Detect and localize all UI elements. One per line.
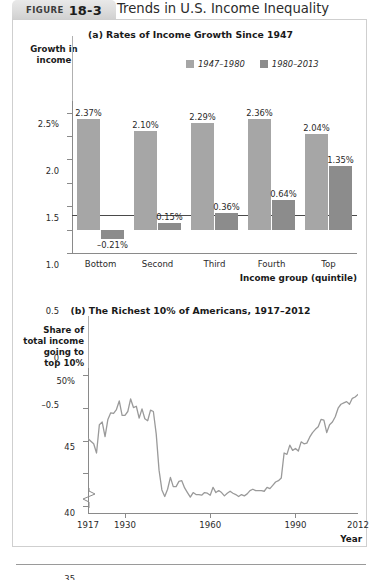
panel-a-y-tick: 1.0 [67,183,72,184]
bar-value-label: 2.04% [303,123,330,133]
bar-value-label: –0.21% [97,240,128,250]
panel-a-y-tick: 2.5% [67,113,72,114]
legend-swatch-1980-2013 [260,60,268,68]
bar-bottom-1980-2013 [101,230,124,240]
legend-label-1980-2013: 1980–2013 [272,59,319,69]
panel-a-y-tick: 1.5 [67,159,72,160]
panel-a-x-tick-label-third: Third [204,259,226,269]
figure-number-tab: FIGURE 18-3 [12,0,116,20]
panel-b-x-tick-label-1990: 1990 [285,520,307,530]
panel-b-y-axis-label-line-2: total income [6,336,84,347]
panel-a-x-tick-label-top: Top [321,259,336,269]
legend-swatch-1947-1980 [186,60,194,68]
panel-b-x-axis-title: Year [340,534,362,544]
bottom-divider [16,564,366,565]
panel-a-y-tick: 0.5 [67,206,72,207]
legend-item-1980-2013: 1980–2013 [260,59,319,69]
panel-a-plot-area: 2.5%2.01.51.00.50–0.5 2.37%–0.21%2.10%0.… [72,101,357,253]
bar-third-1980-2013 [215,213,238,230]
bar-value-label: 2.37% [75,108,102,118]
panel-a-x-axis-title: Income group (quintile) [240,273,357,283]
figure-number: 18-3 [69,3,102,18]
panel-a-y-axis-label-line-2: income [26,55,82,66]
panel-a-x-tick-label-second: Second [142,259,174,269]
panel-a-y-tick-label: –0.5 [41,400,59,410]
panel-b-y-tick-label: 40 [64,508,75,518]
bar-top-1947-1980 [305,134,328,229]
panel-a-x-tick-label-bottom: Bottom [85,259,117,269]
panel-b-y-axis-label-line-1: Share of [6,325,84,336]
bar-value-label: 2.10% [132,120,159,130]
panel-a-legend: 1947–1980 1980–2013 [186,59,319,69]
panel-b-y-tick-label: 50% [56,376,75,386]
panel-b-x-tick-label-1960: 1960 [199,520,221,530]
panel-a-x-axis [72,253,357,254]
panel-b-line-series [88,368,358,513]
panel-a-y-tick: 0 [67,230,72,231]
bar-value-label: 0.36% [213,202,240,212]
income-share-line [88,394,358,497]
bar-fourth-1947-1980 [248,119,271,229]
figure-title: Trends in U.S. Income Inequality [117,1,329,16]
panel-b-y-axis-label: Share of total income going to top 10% [6,325,84,369]
panel-b-plot-area: 50%45403530 19171930196019902012 Year [88,368,358,513]
panel-a-x-tick-label-fourth: Fourth [258,259,286,269]
panel-a-y-axis-label-line-1: Growth in [26,44,82,55]
panel-a-y-tick-label: 1.0 [46,260,59,270]
bar-value-label: 1.35% [327,155,354,165]
bar-fourth-1980-2013 [272,200,295,230]
panel-b-y-tick-label: 45 [64,442,75,452]
legend-label-1947-1980: 1947–1980 [198,59,245,69]
panel-b-x-tick [125,513,126,518]
panel-b-x-tick-label-1930: 1930 [114,520,136,530]
panel-b-x-axis [88,513,358,514]
panel-a-y-axis-upper-extension [72,36,73,101]
panel-b-y-axis-label-line-3: going to [6,347,84,358]
panel-b-x-tick [295,513,296,518]
panel-b-x-tick-label-2012: 2012 [347,520,369,530]
legend-item-1947-1980: 1947–1980 [186,59,245,69]
bar-value-label: 2.29% [189,112,216,122]
panel-b-title: (b) The Richest 10% of Americans, 1917–2… [0,305,381,316]
panel-a-y-tick-label: 2.5% [38,119,59,129]
bar-second-1947-1980 [134,131,157,229]
panel-a-y-axis-label: Growth in income [26,44,82,66]
panel-a-y-axis [72,101,73,253]
panel-a-y-tick-label: 2.0 [46,166,59,176]
panel-a-title: (a) Rates of Income Growth Since 1947 [0,29,381,40]
panel-a-y-tick-label: 1.5 [46,213,59,223]
bar-third-1947-1980 [191,123,214,230]
figure-label-word: FIGURE [26,5,64,15]
bar-value-label: 0.15% [156,212,183,222]
bar-top-1980-2013 [329,166,352,229]
bar-bottom-1947-1980 [77,119,100,230]
panel-b-y-axis-upper-extension [88,316,89,368]
panel-b-y-axis-label-line-4: top 10% [6,358,84,369]
panel-a-y-tick: 2.0 [67,136,72,137]
bar-value-label: 0.64% [270,189,297,199]
panel-b-y-tick-label: 35 [64,574,75,580]
panel-b-x-tick [210,513,211,518]
panel-a-y-tick: –0.5 [67,253,72,254]
bar-value-label: 2.36% [246,108,273,118]
bar-second-1980-2013 [158,223,181,230]
panel-b-x-tick-label-1917: 1917 [77,520,99,530]
